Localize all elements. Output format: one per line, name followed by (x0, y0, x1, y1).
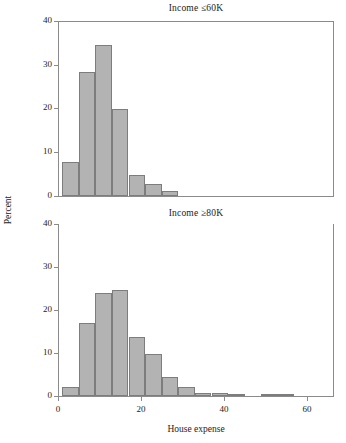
bar (278, 394, 295, 396)
histogram-bars-income-under-60k (58, 21, 334, 196)
x-tick-label-60: 60 (293, 404, 321, 414)
bar (162, 377, 179, 396)
y-tick-label-10-bottom: 10 (24, 347, 52, 357)
x-tick-0 (58, 396, 59, 401)
bar (261, 394, 278, 396)
x-tick-20 (141, 396, 142, 401)
y-tick-label-20-top: 20 (24, 102, 52, 112)
bar (145, 354, 162, 396)
y-tick-label-40-top: 40 (24, 15, 52, 25)
y-tick-label-10-top: 10 (24, 146, 52, 156)
two-panel-histogram-figure: Percent Income ≤60K 0 10 20 30 40 Inco (0, 0, 346, 443)
bar (79, 323, 96, 396)
y-tick-label-0-top: 0 (24, 190, 52, 200)
x-axis-line (58, 196, 334, 197)
plot-area-income-over-80k (58, 224, 334, 396)
bar (162, 191, 179, 196)
bar (95, 293, 112, 396)
x-tick-60 (307, 396, 308, 401)
x-tick-40 (224, 396, 225, 401)
y-tick-label-0-bottom: 0 (24, 390, 52, 400)
panel-title-income-under-60k: Income ≤60K (58, 3, 334, 13)
bar (195, 393, 212, 396)
bar (178, 387, 195, 396)
y-axis-title: Percent (2, 185, 14, 235)
bar (62, 162, 79, 196)
bar (95, 45, 112, 196)
bar (228, 394, 245, 396)
y-tick-label-30-bottom: 30 (24, 261, 52, 271)
panel-title-income-over-80k: Income ≥80K (58, 208, 334, 218)
bar (145, 184, 162, 196)
histogram-bars-income-over-80k (58, 224, 334, 396)
bar (79, 72, 96, 196)
bar (112, 109, 129, 196)
x-tick-label-40: 40 (210, 404, 238, 414)
y-tick-label-40-bottom: 40 (24, 218, 52, 228)
x-axis-title: House expense (58, 424, 334, 434)
bar (129, 337, 146, 396)
bar (62, 387, 79, 396)
bar (212, 393, 229, 396)
x-tick-label-20: 20 (127, 404, 155, 414)
bar (112, 290, 129, 396)
y-tick-label-30-top: 30 (24, 59, 52, 69)
x-tick-label-0: 0 (44, 404, 72, 414)
bar (129, 175, 146, 196)
y-tick-label-20-bottom: 20 (24, 304, 52, 314)
plot-area-income-under-60k (58, 21, 334, 196)
y-tick-0 (54, 196, 59, 197)
